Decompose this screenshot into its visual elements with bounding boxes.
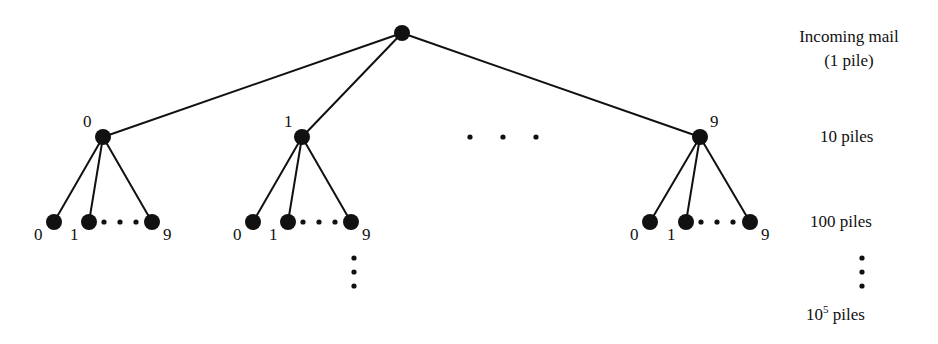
- node-label-L2-1: 1: [284, 113, 293, 130]
- leaf-label-0-1: 1: [70, 226, 79, 243]
- annotation-10-to-5-piles: 105 piles: [806, 306, 865, 323]
- level2-ellipsis-dot: [467, 134, 472, 139]
- leaf-label-1-1: 1: [269, 226, 278, 243]
- tree-node-leaf-2-9: [742, 214, 758, 230]
- leaf-label-1-0: 0: [233, 226, 242, 243]
- leaf-ellipsis-dot-group-1: [332, 219, 337, 224]
- annotation-exp-suffix: piles: [829, 305, 865, 324]
- tree-node-L2-9: [692, 129, 708, 145]
- edge-root-to-L2-0: [103, 33, 402, 137]
- annotation-10-piles: 10 piles: [820, 128, 873, 145]
- edge-root-to-L2-1: [302, 33, 402, 137]
- leaf-label-1-9: 9: [362, 226, 371, 243]
- level2-ellipsis-dot: [533, 134, 538, 139]
- mail-sorting-tree-figure: 019 019019019 Incoming mail (1 pile) 10 …: [0, 0, 938, 344]
- tree-node-leaf-2-1: [678, 214, 694, 230]
- leaf-ellipsis-dot-group-2: [714, 219, 719, 224]
- level2-ellipsis-dot: [500, 134, 505, 139]
- tree-vertical-ellipsis-dot: [351, 283, 356, 288]
- annotation-incoming-mail-line1: Incoming mail: [760, 28, 938, 45]
- tree-node-leaf-1-9: [343, 214, 359, 230]
- annotation-incoming-mail-line2: (1 pile): [760, 52, 938, 69]
- leaf-label-0-9: 9: [163, 226, 172, 243]
- tree-node-leaf-0-0: [46, 214, 62, 230]
- annotation-100-piles: 100 piles: [810, 213, 872, 230]
- tree-vertical-ellipsis-dot: [351, 269, 356, 274]
- ellipsis-dots: [101, 134, 864, 288]
- leaf-ellipsis-dot-group-0: [117, 219, 122, 224]
- leaf-label-0-0: 0: [34, 226, 43, 243]
- tree-nodes: [46, 25, 758, 230]
- edge-root-to-L2-9: [402, 33, 700, 137]
- leaf-ellipsis-dot-group-1: [300, 219, 305, 224]
- leaf-ellipsis-dot-group-1: [316, 219, 321, 224]
- leaf-label-2-0: 0: [630, 226, 639, 243]
- tree-node-L2-1: [294, 129, 310, 145]
- tree-node-leaf-0-9: [144, 214, 160, 230]
- tree-edges: [54, 33, 750, 222]
- leaf-ellipsis-dot-group-0: [101, 219, 106, 224]
- annotation-exp-base: 10: [806, 305, 823, 324]
- side-vertical-ellipsis-dot: [859, 269, 864, 274]
- tree-vertical-ellipsis-dot: [351, 255, 356, 260]
- edge-L2-0-to-leaf-9: [103, 137, 152, 222]
- leaf-ellipsis-dot-group-0: [133, 219, 138, 224]
- edge-L2-1-to-leaf-9: [302, 137, 351, 222]
- side-vertical-ellipsis-dot: [859, 255, 864, 260]
- tree-node-leaf-2-0: [642, 214, 658, 230]
- edge-L2-9-to-leaf-9: [700, 137, 750, 222]
- tree-node-L2-0: [95, 129, 111, 145]
- node-label-L2-9: 9: [710, 113, 719, 130]
- leaf-ellipsis-dot-group-2: [698, 219, 703, 224]
- tree-node-leaf-1-1: [280, 214, 296, 230]
- leaf-label-2-1: 1: [667, 226, 676, 243]
- leaf-ellipsis-dot-group-2: [730, 219, 735, 224]
- node-label-L2-0: 0: [83, 113, 92, 130]
- tree-node-leaf-1-0: [245, 214, 261, 230]
- tree-node-root: [394, 25, 410, 41]
- leaf-label-2-9: 9: [761, 226, 770, 243]
- side-vertical-ellipsis-dot: [859, 283, 864, 288]
- tree-node-leaf-0-1: [81, 214, 97, 230]
